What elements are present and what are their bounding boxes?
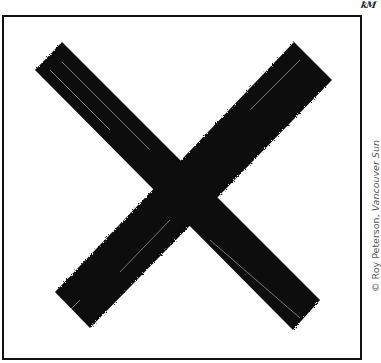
credit-publication: Vancouver Sun — [370, 140, 381, 211]
credit-line: © Roy Peterson, Vancouver Sun — [370, 140, 381, 292]
credit-author: © Roy Peterson, — [370, 211, 381, 292]
artist-signature: ꝁM — [360, 0, 376, 10]
